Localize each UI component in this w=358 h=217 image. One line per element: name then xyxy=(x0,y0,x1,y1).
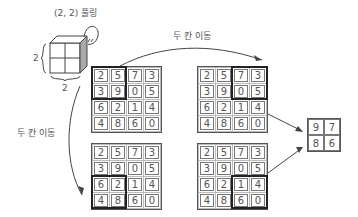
cell: 3 xyxy=(93,161,109,176)
cell: 7 xyxy=(233,68,249,83)
cell: 8 xyxy=(110,193,126,208)
cell: 4 xyxy=(250,100,266,115)
move-label-horizontal: 두 칸 이동 xyxy=(173,29,211,42)
cell: 5 xyxy=(144,161,160,176)
cell: 2 xyxy=(216,100,232,115)
cell: 4 xyxy=(93,193,109,208)
cell: 9 xyxy=(216,84,232,99)
cell: 0 xyxy=(144,116,160,131)
cell: 6 xyxy=(127,193,143,208)
cell: 0 xyxy=(233,161,249,176)
cell: 7 xyxy=(127,145,143,160)
result-cell: 6 xyxy=(324,135,340,151)
cell: 4 xyxy=(93,116,109,131)
cell: 5 xyxy=(216,68,232,83)
cell: 4 xyxy=(144,100,160,115)
title: (2, 2) 풀링 xyxy=(54,6,97,19)
cell: 6 xyxy=(233,116,249,131)
cell: 5 xyxy=(250,161,266,176)
cell: 2 xyxy=(110,177,126,192)
cell: 4 xyxy=(250,177,266,192)
cell: 3 xyxy=(144,68,160,83)
cell: 3 xyxy=(144,145,160,160)
cell: 8 xyxy=(216,193,232,208)
cell: 0 xyxy=(127,161,143,176)
result-cell: 7 xyxy=(324,119,340,135)
result-cell: 9 xyxy=(308,119,324,135)
cell: 2 xyxy=(199,68,215,83)
cell: 0 xyxy=(127,84,143,99)
input-grid-bottom-right: 2573 3905 6214 4860 xyxy=(197,143,268,210)
cell: 3 xyxy=(199,84,215,99)
pooling-cube-icon xyxy=(41,26,98,81)
cell: 6 xyxy=(93,177,109,192)
cell: 6 xyxy=(127,116,143,131)
cell: 8 xyxy=(110,116,126,131)
cell: 8 xyxy=(216,116,232,131)
cell: 6 xyxy=(199,100,215,115)
cell: 5 xyxy=(216,145,232,160)
cell: 3 xyxy=(93,84,109,99)
cell: 5 xyxy=(110,145,126,160)
kernel-height-label: 2 xyxy=(33,53,39,63)
cell: 2 xyxy=(93,68,109,83)
cell: 6 xyxy=(199,177,215,192)
cell: 3 xyxy=(250,68,266,83)
cell: 9 xyxy=(216,161,232,176)
input-grid-top-right: 2573 3905 6214 4860 xyxy=(197,66,268,133)
cell: 1 xyxy=(233,100,249,115)
cell: 1 xyxy=(127,100,143,115)
input-grid-bottom-left: 2573 3905 6214 4860 xyxy=(91,143,162,210)
cell: 0 xyxy=(233,84,249,99)
cell: 7 xyxy=(233,145,249,160)
result-cell: 8 xyxy=(308,135,324,151)
cell: 6 xyxy=(93,100,109,115)
cell: 4 xyxy=(199,116,215,131)
cell: 9 xyxy=(110,84,126,99)
cell: 3 xyxy=(250,145,266,160)
cell: 2 xyxy=(216,177,232,192)
cell: 5 xyxy=(144,84,160,99)
cell: 3 xyxy=(199,161,215,176)
cell: 4 xyxy=(199,193,215,208)
move-label-vertical: 두 칸 이동 xyxy=(17,126,55,139)
cell: 5 xyxy=(110,68,126,83)
cell: 2 xyxy=(199,145,215,160)
cell: 1 xyxy=(127,177,143,192)
cell: 0 xyxy=(144,193,160,208)
input-grid-top-left: 2573 3905 6214 4860 xyxy=(91,66,162,133)
cell: 7 xyxy=(127,68,143,83)
cell: 0 xyxy=(250,193,266,208)
cell: 0 xyxy=(250,116,266,131)
result-grid: 97 86 xyxy=(307,118,341,152)
cell: 9 xyxy=(110,161,126,176)
kernel-width-label: 2 xyxy=(62,83,68,93)
cell: 1 xyxy=(233,177,249,192)
cell: 5 xyxy=(250,84,266,99)
cell: 6 xyxy=(233,193,249,208)
cell: 2 xyxy=(110,100,126,115)
cell: 2 xyxy=(93,145,109,160)
cell: 4 xyxy=(144,177,160,192)
